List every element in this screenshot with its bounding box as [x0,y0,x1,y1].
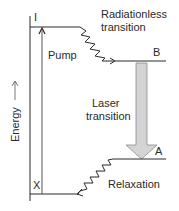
laser-transition-arrow [126,63,157,159]
level-B-label: B [153,46,160,58]
energy-axis: Energy [9,81,21,142]
level-X-label: X [33,179,41,191]
radiationless-label-line2: transition [101,21,146,33]
energy-axis-label: Energy [9,107,21,142]
laser-label-line2: transition [86,110,131,122]
pump-label: Pump [48,49,77,61]
relaxation-label: Relaxation [108,178,160,190]
energy-level-diagram: Energy I X Pump Radiationless transition… [0,0,179,211]
level-A-label: A [155,145,163,157]
level-I-label: I [34,11,37,23]
laser-label-line1: Laser [92,97,120,109]
radiationless-label-line1: Radiationless [101,8,168,20]
